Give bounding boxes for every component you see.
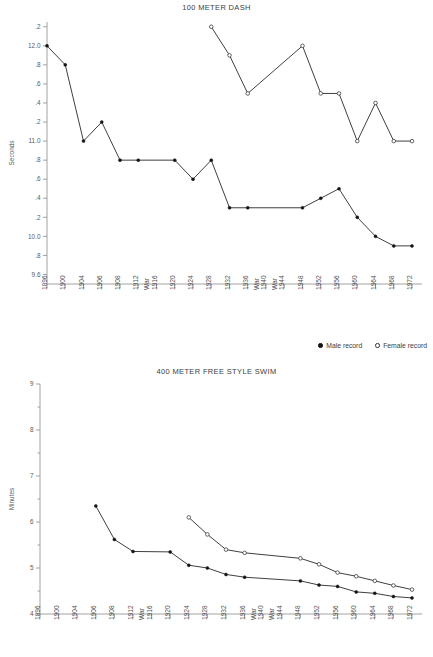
open-circle-icon [375, 343, 380, 348]
x-tick-label: 1904 [78, 275, 85, 290]
data-point-male [228, 206, 231, 209]
y-tick-label: 8 [30, 426, 34, 433]
data-point-male [411, 596, 414, 599]
data-point-male [119, 159, 122, 162]
data-point-female [243, 551, 247, 555]
x-tick-label: 1900 [53, 605, 60, 620]
y-tick-label: .6 [35, 80, 41, 87]
x-tick-label: 1972 [406, 275, 413, 290]
data-point-male [192, 178, 195, 181]
x-tick-label: 1906 [90, 605, 97, 620]
data-point-male [392, 595, 395, 598]
data-point-female [228, 54, 232, 58]
war-label: War [271, 277, 278, 290]
data-point-female [337, 92, 341, 96]
legend-entry-male: Male record [318, 342, 362, 349]
legend: Male record Female record [318, 342, 427, 349]
data-point-female [374, 101, 378, 105]
x-tick-label: 1948 [297, 275, 304, 290]
x-tick-label: 1924 [183, 605, 190, 620]
x-tick-label: 1928 [205, 275, 212, 290]
plot-area-swim: 987654Minutes189619001904190619081912191… [0, 362, 433, 657]
data-point-male [355, 590, 358, 593]
war-label: War [253, 277, 260, 290]
data-point-male [94, 504, 97, 507]
y-tick-label: 11.0 [29, 137, 41, 144]
x-tick-label: 1964 [369, 605, 376, 620]
data-point-male [113, 538, 116, 541]
y-tick-label: .4 [35, 194, 41, 201]
chart-400-meter-free-style-swim: 400 METER FREE STYLE SWIM 987654Minutes1… [0, 362, 433, 657]
y-tick-label: .2 [35, 214, 41, 221]
plot-area-dash: .212.0.8.6.4.211.0.8.6.4.210.0.89.6Secon… [0, 0, 433, 365]
data-point-male [301, 206, 304, 209]
data-point-female [319, 92, 323, 96]
data-point-male [319, 197, 322, 200]
legend-entry-female: Female record [375, 342, 427, 349]
x-tick-label: 1928 [201, 605, 208, 620]
x-tick-label: 1932 [220, 605, 227, 620]
data-point-female [392, 584, 396, 588]
x-tick-label: 1956 [332, 605, 339, 620]
data-point-female [187, 516, 191, 520]
data-point-male [173, 159, 176, 162]
data-point-male [318, 584, 321, 587]
x-tick-label: 1972 [406, 605, 413, 620]
data-point-female [206, 533, 210, 537]
data-point-male [338, 187, 341, 190]
data-point-male [187, 564, 190, 567]
x-tick-label: 1916 [146, 605, 153, 620]
y-axis-title: Seconds [8, 141, 15, 166]
data-point-female [317, 563, 321, 567]
legend-label-male: Male record [326, 342, 362, 349]
y-tick-label: .6 [35, 175, 41, 182]
x-tick-label: 1968 [387, 605, 394, 620]
data-point-female [299, 557, 303, 561]
y-tick-label: .2 [35, 118, 41, 125]
x-tick-label: 1912 [132, 275, 139, 290]
data-point-male [243, 576, 246, 579]
x-tick-label: 1936 [242, 275, 249, 290]
filled-circle-icon [318, 343, 323, 348]
x-tick-label: 1916 [151, 275, 158, 290]
data-point-female [354, 574, 358, 578]
data-point-male [392, 244, 395, 247]
data-point-male [411, 244, 414, 247]
x-tick-label: 1896 [34, 605, 41, 620]
data-point-female [209, 25, 213, 29]
y-tick-label: 9 [30, 380, 34, 387]
x-tick-label: 1896 [41, 275, 48, 290]
data-point-male [373, 592, 376, 595]
x-tick-label: 1952 [315, 275, 322, 290]
data-point-male [210, 159, 213, 162]
data-point-female [224, 548, 228, 552]
y-tick-label: .8 [35, 156, 41, 163]
y-tick-label: .4 [35, 99, 41, 106]
x-tick-label: 1940 [260, 275, 267, 290]
x-tick-label: 1944 [278, 275, 285, 290]
x-tick-label: 1908 [108, 605, 115, 620]
x-tick-label: 1948 [294, 605, 301, 620]
data-point-female [410, 588, 414, 592]
war-label: War [143, 277, 150, 290]
x-tick-label: 1968 [388, 275, 395, 290]
x-tick-label: 1944 [276, 605, 283, 620]
x-tick-label: 1920 [164, 605, 171, 620]
war-label: War [250, 607, 257, 620]
x-tick-label: 1920 [169, 275, 176, 290]
data-point-male [336, 585, 339, 588]
y-tick-label: 12.0 [28, 42, 41, 49]
x-tick-label: 1960 [351, 275, 358, 290]
data-point-male [225, 573, 228, 576]
y-tick-label: .8 [35, 61, 41, 68]
y-tick-label: .2 [35, 23, 41, 30]
y-tick-label: .8 [35, 252, 41, 259]
data-point-female [301, 44, 305, 48]
data-point-male [374, 235, 377, 238]
y-tick-label: 5 [30, 564, 34, 571]
data-point-male [132, 550, 135, 553]
x-tick-label: 1952 [313, 605, 320, 620]
series-line-male [96, 506, 412, 598]
x-tick-label: 1912 [127, 605, 134, 620]
x-tick-label: 1964 [370, 275, 377, 290]
